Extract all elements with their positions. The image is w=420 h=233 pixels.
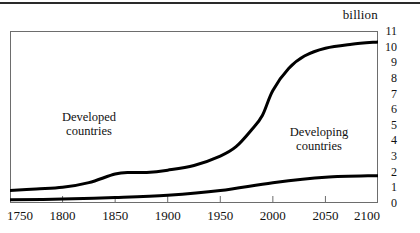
y-tick-label: 5 bbox=[381, 119, 397, 131]
x-tick-label: 1950 bbox=[207, 208, 233, 223]
y-axis-labels: 01234567891011 bbox=[381, 31, 419, 203]
x-tick-label: 1850 bbox=[102, 208, 128, 223]
series-annotation-developed: Developed countries bbox=[44, 110, 134, 138]
y-tick-label: 3 bbox=[381, 150, 397, 162]
y-tick-label: 11 bbox=[381, 25, 397, 37]
x-axis-labels: 17501800185019001950200020502100 bbox=[0, 206, 420, 228]
y-tick-label: 9 bbox=[381, 56, 397, 68]
x-tick-label: 2000 bbox=[260, 208, 286, 223]
y-tick-label: 7 bbox=[381, 88, 397, 100]
x-tick-label: 2100 bbox=[354, 208, 380, 223]
y-tick-label: 1 bbox=[381, 181, 397, 193]
x-tick-label: 1900 bbox=[155, 208, 181, 223]
annotation-developing-line1: Developing bbox=[272, 125, 366, 139]
x-tick-label: 1800 bbox=[50, 208, 76, 223]
top-divider-rule bbox=[0, 2, 420, 4]
y-tick-label: 6 bbox=[381, 103, 397, 115]
x-tick-label: 1750 bbox=[7, 208, 33, 223]
series-annotation-developing: Developing countries bbox=[272, 125, 366, 153]
y-tick-label: 2 bbox=[381, 166, 397, 178]
population-chart-figure: billion 01234567891011 17501800185019001… bbox=[0, 0, 420, 233]
annotation-developed-line1: Developed bbox=[44, 110, 134, 124]
x-tick-label: 2050 bbox=[312, 208, 338, 223]
annotation-developing-line2: countries bbox=[272, 139, 366, 153]
unit-caption: billion bbox=[343, 7, 378, 22]
annotation-developed-line2: countries bbox=[44, 124, 134, 138]
y-tick-label: 8 bbox=[381, 72, 397, 84]
y-tick-label: 4 bbox=[381, 134, 397, 146]
y-tick-label: 10 bbox=[381, 41, 397, 53]
